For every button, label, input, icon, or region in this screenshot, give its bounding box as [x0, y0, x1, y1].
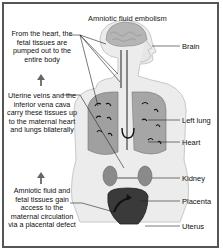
- right-lung-shape: [88, 92, 118, 155]
- left-lung-shape: [132, 92, 166, 154]
- label-heart: Heart: [182, 138, 200, 147]
- right-kidney-shape: [103, 166, 117, 186]
- label-uterus: Uterus: [182, 222, 204, 231]
- note-placental-access: Amniotic fluid and fetal tissues gain ac…: [6, 187, 78, 230]
- left-kidney-shape: [138, 166, 152, 186]
- diagram-title: Amniotic fluid embolism: [88, 14, 167, 23]
- label-left-lung: Left lung: [182, 116, 211, 125]
- note-veins-carry: Uterine veins and the inferior vena cava…: [6, 92, 78, 135]
- label-placenta: Placenta: [182, 197, 211, 206]
- note-pumped-out: From the heart, the fetal tissues are pu…: [6, 30, 78, 64]
- up-arrow-stem: [40, 80, 42, 86]
- label-kidney: Kidney: [182, 174, 205, 183]
- up-arrow-stem: [40, 178, 42, 184]
- label-brain: Brain: [182, 42, 200, 51]
